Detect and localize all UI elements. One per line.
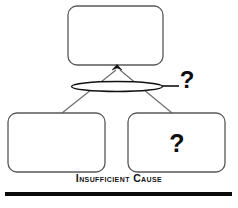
interaction-ellipse[interactable] <box>72 82 163 92</box>
bottom-rule-divider <box>5 192 232 196</box>
insufficient-cause-figure: ? ? Insufficient Cause <box>0 0 238 208</box>
cause-box-left[interactable] <box>8 113 105 172</box>
ellipse-question-mark: ? <box>180 66 195 93</box>
cause-box-right-question-mark: ? <box>169 129 184 157</box>
figure-caption: Insufficient Cause <box>0 172 238 184</box>
effect-box[interactable] <box>68 6 163 65</box>
